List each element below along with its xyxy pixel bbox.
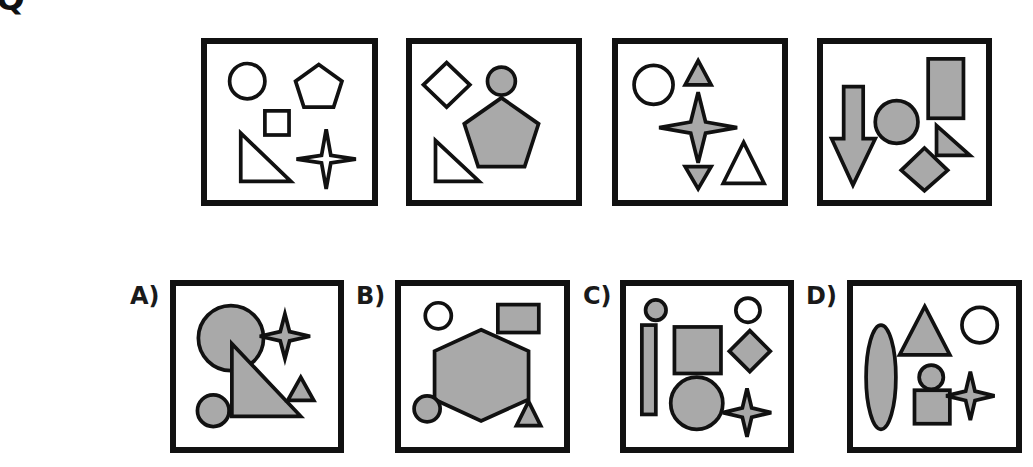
pentagon-gray-shape [464,98,538,167]
circle-gray-shape [875,101,918,144]
small-circle-gray-shape [197,395,229,427]
star-gray-shape [946,372,994,420]
rectangle-gray-shape [498,305,539,333]
diamond-gray-shape [729,331,770,372]
small-triangle-gray-shape [288,377,314,400]
triangle-outline-shape [723,142,764,183]
ellipse-gray-shape [866,325,896,429]
circle-gray-shape [488,67,516,95]
sequence-1-figure [207,44,372,200]
square-outline-shape [265,111,289,135]
sequence-panel-3 [612,38,788,206]
option-c-panel[interactable] [620,280,794,453]
star-gray-shape [260,314,310,359]
circle-outline-shape [736,298,760,322]
option-d-figure [853,286,1016,447]
circle-outline-shape [634,65,673,104]
pentagon-outline-shape [296,64,342,107]
down-arrow-gray-shape [832,87,876,185]
option-c-figure [626,286,788,447]
star-gray-shape [723,388,771,436]
small-circle-gray-shape [646,300,666,320]
star-outline-shape [296,129,355,188]
sequence-3-figure [618,44,782,200]
sequence-4-figure [823,44,986,200]
option-a-panel[interactable] [170,280,344,453]
right-triangle-gray-shape [937,126,970,156]
sequence-panel-2 [406,38,582,206]
star-gray-shape [659,92,737,163]
square-gray-shape [914,390,949,424]
right-triangle-outline-shape [241,133,291,181]
triangle-down-gray-shape [685,167,711,189]
triangle-up-gray-shape [685,61,711,85]
circle-outline-shape [425,303,451,329]
option-d-label: D) [806,282,837,310]
option-a-figure [176,286,338,447]
option-c-label: C) [583,282,612,310]
sequence-panel-4 [817,38,992,206]
right-triangle-gray-shape [232,344,301,417]
hexagon-gray-shape [435,330,529,421]
circle-outline-shape [230,64,265,99]
square-gray-shape [674,327,721,374]
small-circle-gray-shape [414,396,440,422]
option-d-panel[interactable] [847,280,1022,453]
tall-bar-gray-shape [642,325,656,414]
circle-outline-shape [962,307,997,342]
rectangle-gray-shape [928,59,963,118]
sequence-panel-1 [201,38,378,206]
triangle-gray-shape [900,306,950,354]
option-a-label: A) [130,282,160,310]
option-b-figure [401,286,564,447]
small-circle-gray-shape [919,365,943,389]
large-circle-gray-shape [671,377,723,429]
option-b-label: B) [356,282,385,310]
diamond-outline-shape [423,63,469,108]
question-number: Q [0,0,25,18]
sequence-2-figure [412,44,576,200]
option-b-panel[interactable] [395,280,570,453]
